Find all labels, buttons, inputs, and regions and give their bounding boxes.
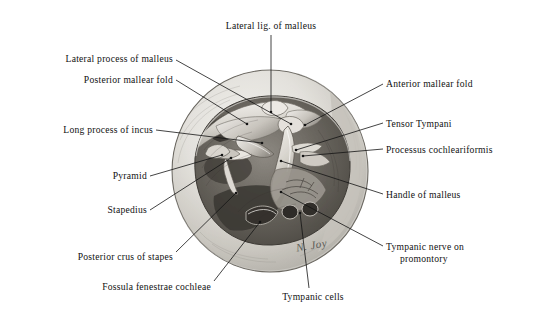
label-tensor-tympani: Tensor Tympani — [386, 118, 526, 130]
label-posterior-crus-of-stapes: Posterior crus of stapes — [41, 251, 173, 263]
label-text: Fossula fenestrae cochleae — [102, 281, 211, 292]
label-pyramid: Pyramid — [82, 170, 147, 182]
label-stapedius: Stapedius — [82, 204, 147, 216]
label-text: Posterior crus of stapes — [78, 251, 173, 262]
label-processus-cochleariformis: Processus cochleariformis — [386, 144, 538, 156]
label-text-line2: promontory — [386, 253, 538, 265]
label-text: Stapedius — [107, 204, 147, 215]
label-text: Processus cochleariformis — [386, 144, 493, 155]
label-text: Tympanic nerve on — [386, 241, 464, 252]
label-text: Posterior mallear fold — [84, 74, 173, 85]
label-lateral-lig-of-malleus: Lateral lig. of malleus — [199, 20, 343, 32]
label-tympanic-cells: Tympanic cells — [263, 291, 363, 303]
label-text: Tensor Tympani — [386, 118, 452, 129]
label-text: Tympanic cells — [282, 291, 344, 302]
label-lateral-process-of-malleus: Lateral process of malleus — [30, 53, 173, 65]
label-fossula-fenestrae-cochleae: Fossula fenestrae cochleae — [58, 281, 211, 293]
label-posterior-mallear-fold: Posterior mallear fold — [50, 74, 173, 86]
label-text: Lateral process of malleus — [66, 53, 173, 64]
label-text: Handle of malleus — [386, 189, 461, 200]
label-text: Long process of incus — [63, 124, 153, 135]
label-text: Lateral lig. of malleus — [226, 20, 316, 31]
label-layer: Lateral lig. of malleusLateral process o… — [0, 0, 544, 314]
label-anterior-mallear-fold: Anterior mallear fold — [386, 78, 526, 90]
label-text: Pyramid — [113, 170, 147, 181]
label-long-process-of-incus: Long process of incus — [26, 124, 153, 136]
label-tympanic-nerve-on-promontory: Tympanic nerve onpromontory — [386, 241, 538, 264]
anatomical-plate: Lateral lig. of malleusLateral process o… — [0, 0, 544, 314]
label-text: Anterior mallear fold — [386, 78, 473, 89]
label-handle-of-malleus: Handle of malleus — [386, 189, 526, 201]
